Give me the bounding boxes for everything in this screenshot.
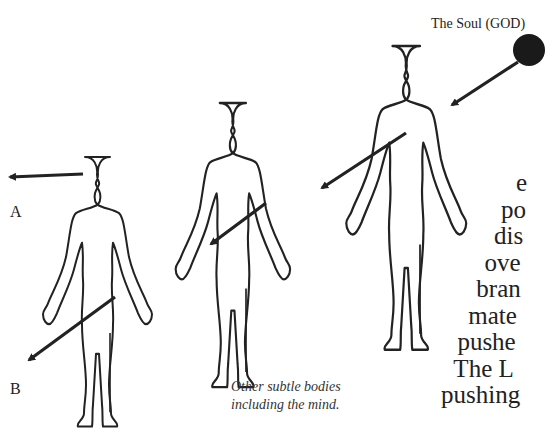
- text-line: The L: [440, 356, 527, 383]
- subtle-bodies-caption: Other subtle bodies including the mind.: [231, 378, 341, 414]
- text-line: pushing: [434, 382, 527, 409]
- cropped-body-text: e po dis ove bran mate pushe The L pushi…: [490, 170, 527, 409]
- right-body-figure: [346, 46, 466, 350]
- text-line: dis: [490, 223, 527, 250]
- text-line: ove: [478, 250, 527, 277]
- text-line: bran: [470, 276, 527, 303]
- caption-line: including the mind.: [231, 396, 341, 414]
- text-line: e: [516, 170, 527, 197]
- soul-label: The Soul (GOD): [431, 16, 525, 32]
- text-line: pushe: [446, 329, 527, 356]
- left-body-figure: [43, 157, 152, 427]
- soul-circle: [513, 34, 545, 66]
- label-b: B: [10, 380, 21, 398]
- arrow-a: [10, 174, 83, 177]
- label-a: A: [10, 203, 22, 221]
- arrow-b: [29, 297, 115, 360]
- caption-line: Other subtle bodies: [231, 378, 341, 396]
- soul-arrow: [452, 62, 518, 105]
- text-line: po: [500, 197, 527, 224]
- text-line: mate: [458, 303, 527, 330]
- middle-body-figure: [176, 103, 290, 387]
